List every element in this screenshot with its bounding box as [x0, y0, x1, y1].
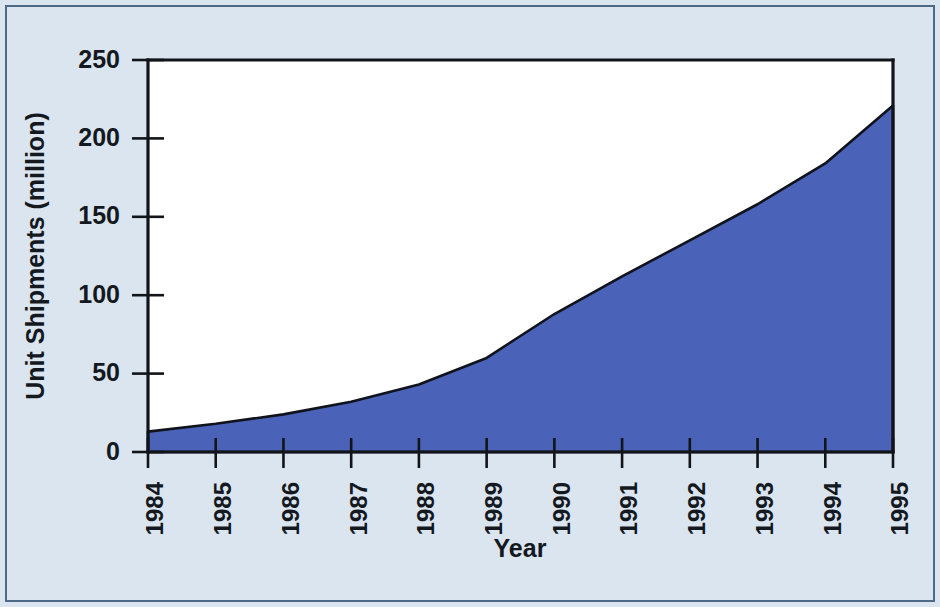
area-chart: 250200150100500 198419851986198719881989…: [0, 0, 940, 607]
y-tick-label: 250: [78, 45, 120, 73]
x-tick-label: 1994: [819, 481, 846, 535]
x-tick-label: 1990: [548, 482, 575, 535]
x-tick-label: 1992: [683, 482, 710, 535]
y-axis-title: Unit Shipments (million): [21, 112, 49, 400]
x-tick-label: 1988: [412, 482, 439, 535]
y-tick-label: 200: [78, 123, 120, 151]
x-tick-label: 1993: [751, 482, 778, 535]
x-tick-label: 1991: [615, 482, 642, 535]
x-tick-label: 1986: [277, 482, 304, 535]
x-tick-label: 1995: [886, 482, 913, 535]
y-tick-label: 0: [106, 437, 120, 465]
chart-figure: 250200150100500 198419851986198719881989…: [0, 0, 940, 607]
x-axis-title: Year: [494, 534, 547, 562]
x-tick-label: 1985: [209, 482, 236, 535]
y-tick-label: 100: [78, 280, 120, 308]
x-tick-label: 1987: [345, 482, 372, 535]
x-tick-label: 1989: [480, 482, 507, 535]
x-tick-label: 1984: [141, 481, 168, 535]
y-tick-label: 50: [92, 358, 120, 386]
y-tick-label: 150: [78, 201, 120, 229]
